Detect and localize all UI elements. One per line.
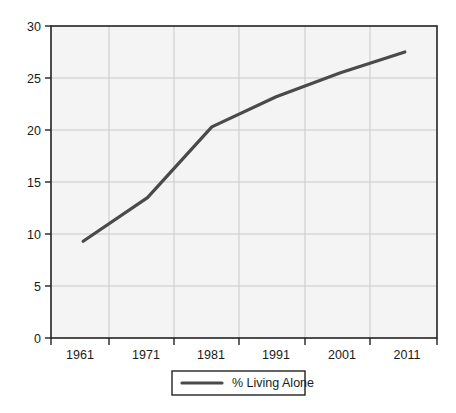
y-axis-label-6: 0 <box>34 332 41 346</box>
chart-canvas: 30 25 20 15 10 5 0 1961 1971 1981 1991 2… <box>0 0 456 413</box>
chart-legend: % Living Alone <box>172 371 314 395</box>
legend-label-pct-living-alone: % Living Alone <box>232 376 314 390</box>
x-axis-label-1961: 1961 <box>66 348 94 362</box>
line-chart: 30 25 20 15 10 5 0 1961 1971 1981 1991 2… <box>0 0 456 413</box>
x-axis-label-1971: 1971 <box>132 348 160 362</box>
y-axis-ticks <box>45 26 51 338</box>
y-axis-label-5: 5 <box>34 280 41 294</box>
x-axis-label-2011: 2011 <box>394 348 421 362</box>
x-axis-labels: 1961 1971 1981 1991 2001 2011 <box>66 348 420 362</box>
y-axis-label-2: 20 <box>27 124 41 138</box>
y-axis-label-3: 15 <box>27 176 41 190</box>
y-axis-label-0: 30 <box>27 20 41 34</box>
y-axis-labels: 30 25 20 15 10 5 0 <box>27 20 41 346</box>
x-axis-label-2001: 2001 <box>328 348 356 362</box>
y-axis-label-1: 25 <box>27 72 41 86</box>
x-axis-label-1991: 1991 <box>262 348 290 362</box>
x-axis-ticks <box>51 338 437 345</box>
x-axis-label-1981: 1981 <box>197 348 225 362</box>
y-axis-label-4: 10 <box>27 228 41 242</box>
